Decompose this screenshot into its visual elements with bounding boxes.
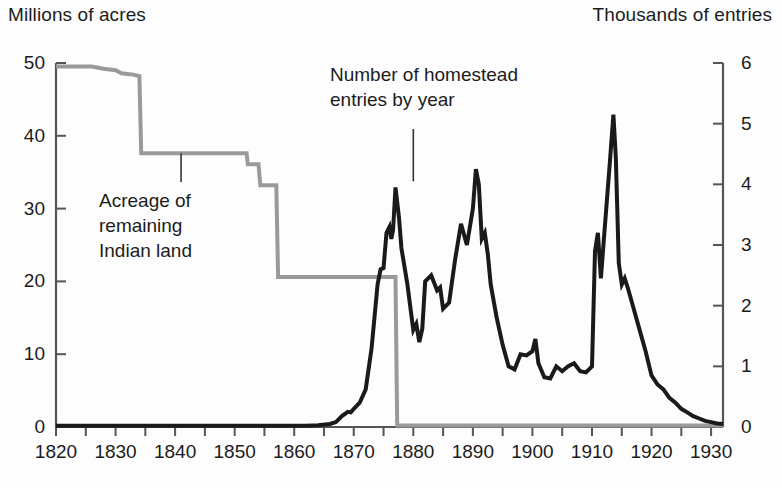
y-tick-label-right: 5 (741, 113, 781, 135)
x-tick-label: 1920 (630, 441, 672, 463)
y-tick-label-right: 6 (741, 52, 781, 74)
x-tick-label: 1890 (452, 441, 494, 463)
x-tick-label: 1870 (333, 441, 375, 463)
x-tick-label: 1860 (273, 441, 315, 463)
x-tick-label: 1850 (214, 441, 256, 463)
annotation-leader-lines (181, 129, 413, 182)
y-tick-label-right: 1 (741, 355, 781, 377)
y-tick-label-left: 40 (5, 125, 45, 147)
y-tick-label-right: 2 (741, 295, 781, 317)
x-tick-label: 1840 (154, 441, 196, 463)
y-tick-label-left: 20 (5, 270, 45, 292)
y-tick-label-right: 4 (741, 173, 781, 195)
series-layer (56, 67, 723, 426)
x-tick-label: 1910 (571, 441, 613, 463)
chart-container: Millions of acres Thousands of entries A… (0, 0, 782, 488)
x-tick-label: 1880 (392, 441, 434, 463)
x-tick-label: 1900 (511, 441, 553, 463)
axes-layer (56, 63, 723, 436)
series-line-homestead-entries (56, 115, 723, 426)
y-tick-label-right: 0 (741, 416, 781, 438)
series-line-indian-land (56, 67, 723, 426)
x-tick-label: 1820 (35, 441, 77, 463)
x-tick-label: 1930 (690, 441, 732, 463)
y-tick-label-left: 0 (5, 416, 45, 438)
y-tick-label-left: 50 (5, 52, 45, 74)
y-tick-label-left: 10 (5, 343, 45, 365)
y-tick-label-right: 3 (741, 234, 781, 256)
chart-plot-area (0, 0, 782, 488)
x-tick-label: 1830 (94, 441, 136, 463)
y-tick-label-left: 30 (5, 198, 45, 220)
